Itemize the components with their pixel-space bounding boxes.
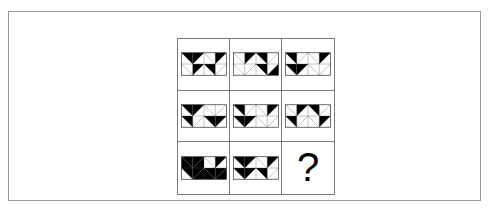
figure-row2-col1-svg [181,104,227,128]
figure-row2-col3 [282,91,334,143]
figure-row2-col2-svg [233,104,279,128]
figure-row3-col2-svg [233,156,279,180]
figure-row3-col1 [178,142,230,194]
figure-row3-col1-svg [181,156,227,180]
figure-row3-col2 [230,142,282,194]
puzzle-page: ? [0,0,489,211]
missing-answer-cell[interactable]: ? [282,142,334,194]
matrix-grid: ? [177,38,335,195]
figure-row1-col2 [230,39,282,91]
figure-row1-col3 [282,39,334,91]
outer-frame-border: ? [8,11,481,201]
figure-row1-col3-svg [285,52,331,76]
figure-row2-col3-svg [285,104,331,128]
question-mark-glyph: ? [297,147,319,187]
figure-row1-col1-svg [181,52,227,76]
figure-row2-col1 [178,91,230,143]
figure-row2-col2 [230,91,282,143]
figure-row1-col1 [178,39,230,91]
figure-row1-col2-svg [233,52,279,76]
